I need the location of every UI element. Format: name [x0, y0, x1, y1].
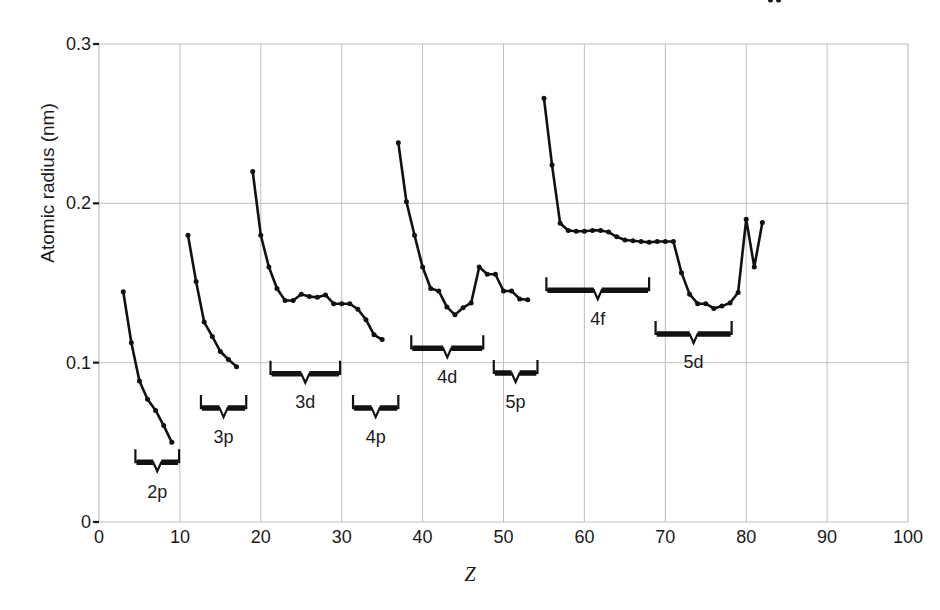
- data-point: [760, 220, 765, 225]
- data-point: [226, 357, 231, 362]
- x-tick-label: 50: [493, 527, 513, 548]
- y-tick-label: 0.2: [35, 193, 91, 214]
- data-point: [428, 286, 433, 291]
- data-point: [566, 228, 571, 233]
- chart-canvas: [0, 0, 940, 610]
- data-point: [283, 298, 288, 303]
- x-tick-label: 70: [655, 527, 675, 548]
- data-point: [558, 221, 563, 226]
- shell-label-4f: 4f: [590, 309, 605, 330]
- data-point: [380, 337, 385, 342]
- data-point: [331, 301, 336, 306]
- data-point: [121, 289, 126, 294]
- data-point: [218, 349, 223, 354]
- series-line-period-2: [123, 292, 172, 443]
- data-point: [752, 265, 757, 270]
- series-line-period-4: [253, 171, 382, 339]
- data-point: [210, 334, 215, 339]
- data-point: [711, 306, 716, 311]
- data-point: [509, 288, 514, 293]
- data-point: [396, 140, 401, 145]
- series-line-period-5: [398, 143, 527, 315]
- data-point: [598, 228, 603, 233]
- data-point: [355, 307, 360, 312]
- data-point: [129, 340, 134, 345]
- data-point: [574, 229, 579, 234]
- y-axis-label: Atomic radius (nm): [37, 73, 59, 293]
- x-tick-label: 30: [332, 527, 352, 548]
- data-point: [323, 292, 328, 297]
- data-point: [517, 296, 522, 301]
- data-point: [412, 233, 417, 238]
- shell-label-2p: 2p: [147, 482, 167, 503]
- data-point: [541, 96, 546, 101]
- figure-root: Atomic radius (nm) Z 0102030405060708090…: [0, 0, 940, 610]
- y-tick-label: 0.1: [35, 352, 91, 373]
- data-point: [493, 272, 498, 277]
- data-point: [250, 169, 255, 174]
- data-point: [266, 265, 271, 270]
- x-tick-label: 80: [736, 527, 756, 548]
- data-point: [315, 295, 320, 300]
- data-point: [622, 237, 627, 242]
- shell-label-5d: 5d: [684, 352, 704, 373]
- data-point: [663, 239, 668, 244]
- data-point: [671, 239, 676, 244]
- data-point: [274, 286, 279, 291]
- x-tick-label: 100: [893, 527, 923, 548]
- x-tick-label: 40: [413, 527, 433, 548]
- data-point: [444, 304, 449, 309]
- data-point: [185, 233, 190, 238]
- data-point: [639, 239, 644, 244]
- data-point: [452, 312, 457, 317]
- data-point: [687, 292, 692, 297]
- data-point: [606, 230, 611, 235]
- y-tick-label: 0.3: [35, 34, 91, 55]
- x-tick-label: 20: [251, 527, 271, 548]
- data-point: [299, 292, 304, 297]
- data-point: [291, 298, 296, 303]
- data-point: [525, 297, 530, 302]
- data-point: [647, 240, 652, 245]
- data-point: [703, 301, 708, 306]
- data-point: [582, 229, 587, 234]
- data-point: [258, 233, 263, 238]
- data-point: [420, 265, 425, 270]
- data-point: [169, 440, 174, 445]
- x-tick-label: 0: [94, 527, 104, 548]
- y-tick-label: 0: [35, 512, 91, 533]
- x-tick-label: 90: [817, 527, 837, 548]
- data-point: [145, 397, 150, 402]
- data-point: [307, 294, 312, 299]
- shell-label-3d: 3d: [295, 392, 315, 413]
- data-point: [744, 217, 749, 222]
- data-point: [485, 272, 490, 277]
- data-point: [347, 301, 352, 306]
- data-point: [655, 239, 660, 244]
- data-point: [194, 279, 199, 284]
- data-point: [153, 408, 158, 413]
- data-point: [768, 0, 773, 3]
- data-point: [137, 378, 142, 383]
- data-point: [736, 290, 741, 295]
- shell-label-4p: 4p: [366, 427, 386, 448]
- data-point: [161, 423, 166, 428]
- data-point: [630, 238, 635, 243]
- shell-label-4d: 4d: [437, 367, 457, 388]
- data-point: [501, 288, 506, 293]
- x-axis-label: Z: [464, 563, 475, 586]
- data-point: [728, 300, 733, 305]
- data-point: [372, 332, 377, 337]
- series-line-period-3: [188, 235, 237, 366]
- atomic-radius-chart: Atomic radius (nm) Z 0102030405060708090…: [0, 0, 940, 610]
- data-point: [477, 265, 482, 270]
- data-point: [469, 300, 474, 305]
- data-point: [614, 234, 619, 239]
- data-point: [461, 305, 466, 310]
- x-tick-label: 10: [170, 527, 190, 548]
- data-point: [339, 301, 344, 306]
- x-tick-label: 60: [574, 527, 594, 548]
- data-point: [436, 288, 441, 293]
- shell-label-5p: 5p: [506, 392, 526, 413]
- data-point: [404, 199, 409, 204]
